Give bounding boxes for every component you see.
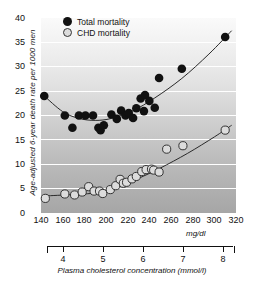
y-tick-5: 5 (3, 183, 25, 193)
data-point (179, 142, 187, 150)
data-point (40, 92, 49, 101)
data-point (132, 104, 141, 113)
x-axis-unit-mgdl: mg/dl (186, 229, 206, 238)
data-point (178, 64, 187, 73)
data-point (89, 111, 98, 120)
data-point (41, 194, 49, 202)
y-tick-25: 25 (3, 86, 25, 96)
total-mortality-points (40, 33, 230, 135)
data-point (155, 74, 164, 83)
y-tick-15: 15 (3, 135, 25, 145)
chd-mortality-points (41, 126, 229, 202)
data-point (221, 126, 229, 134)
mmol-tick-6 (143, 246, 144, 252)
open-circle-icon (63, 28, 72, 37)
mmol-tick-7 (183, 246, 184, 252)
y-axis-title: Age-adjusted 6-year death rate per 1000 … (28, 20, 37, 206)
data-point (99, 189, 107, 197)
legend-item-chd-mortality: CHD mortality (63, 27, 130, 38)
chart-figure: Age-adjusted 6-year death rate per 1000 … (0, 0, 264, 282)
data-point (155, 168, 163, 176)
y-tick-30: 30 (3, 61, 25, 71)
legend-label-chd-mortality: CHD mortality (77, 28, 130, 38)
data-point (221, 33, 230, 42)
mmol-label-7: 7 (171, 254, 195, 264)
data-point (81, 111, 90, 120)
mmol-label-8: 8 (211, 254, 235, 264)
secondary-axis-caps (47, 246, 235, 253)
data-point (68, 123, 77, 132)
y-tick-10: 10 (3, 159, 25, 169)
mmol-tick-5 (103, 246, 104, 252)
data-point (70, 191, 78, 199)
x-tick-320: 320 (223, 215, 249, 225)
mmol-tick-4 (63, 246, 64, 252)
data-point (61, 111, 70, 120)
y-tick-35: 35 (3, 37, 25, 47)
data-point (100, 121, 109, 130)
y-tick-0: 0 (3, 208, 25, 218)
legend-label-total-mortality: Total mortality (77, 17, 129, 27)
plot-area (41, 18, 236, 213)
chd-mortality-trend-line (45, 125, 231, 196)
y-tick-40: 40 (3, 13, 25, 23)
mmol-label-4: 4 (51, 254, 75, 264)
data-point (140, 107, 149, 116)
data-point (129, 114, 138, 123)
legend-item-total-mortality: Total mortality (63, 16, 130, 27)
data-point (113, 115, 122, 124)
mmol-tick-8 (223, 246, 224, 252)
mmol-label-5: 5 (91, 254, 115, 264)
data-point (163, 145, 171, 153)
y-tick-20: 20 (3, 110, 25, 120)
filled-circle-icon (63, 17, 72, 26)
x-axis-title: Plasma cholesterol concentration (mmol/l… (0, 266, 264, 275)
data-point (145, 97, 154, 106)
chart-legend: Total mortality CHD mortality (63, 16, 130, 38)
data-point (150, 103, 159, 112)
data-point (61, 190, 69, 198)
mmol-label-6: 6 (131, 254, 155, 264)
data-layer (41, 18, 236, 213)
